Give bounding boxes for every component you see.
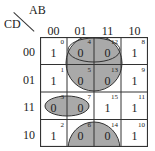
cell-index: 8 xyxy=(142,38,146,46)
cell-index: 1 xyxy=(61,66,65,74)
cell-index: 11 xyxy=(138,93,145,101)
cell-value: 0 xyxy=(94,74,121,89)
cell-index: 7 xyxy=(88,93,92,101)
col-variable-label: AB xyxy=(29,4,46,16)
row-label-00: 00 xyxy=(20,45,38,60)
cell-value: 0 xyxy=(94,129,121,144)
cell-10: 101 xyxy=(121,120,148,148)
cell-index: 5 xyxy=(88,66,92,74)
cell-value: 1 xyxy=(121,101,148,116)
cell-value: 1 xyxy=(121,46,148,61)
cell-index: 9 xyxy=(142,66,146,74)
cell-0: 01 xyxy=(40,37,67,65)
cell-3: 30 xyxy=(40,92,67,120)
cell-index: 2 xyxy=(61,121,65,129)
cell-6: 60 xyxy=(67,120,94,148)
cell-index: 6 xyxy=(88,121,92,129)
cell-value: 1 xyxy=(121,74,148,89)
row-label-10: 10 xyxy=(20,128,38,143)
cell-index: 14 xyxy=(111,121,118,129)
cell-7: 70 xyxy=(67,92,94,120)
cell-value: 1 xyxy=(40,129,67,144)
cell-value: 1 xyxy=(40,74,67,89)
cell-2: 21 xyxy=(40,120,67,148)
cell-index: 4 xyxy=(88,38,92,46)
kmap-grid: 01 40 120 81 11 50 130 91 30 70 151 111 … xyxy=(40,37,148,147)
cell-index: 3 xyxy=(61,93,65,101)
cell-11: 111 xyxy=(121,92,148,120)
cell-value: 0 xyxy=(67,74,94,89)
cell-value: 0 xyxy=(67,129,94,144)
cell-5: 50 xyxy=(67,65,94,93)
cell-15: 151 xyxy=(94,92,121,120)
row-variable-label: CD xyxy=(4,18,21,30)
cell-9: 91 xyxy=(121,65,148,93)
cell-index: 15 xyxy=(111,93,118,101)
cell-value: 1 xyxy=(121,129,148,144)
row-label-01: 01 xyxy=(20,73,38,88)
cell-value: 0 xyxy=(94,46,121,61)
row-label-11: 11 xyxy=(20,100,38,115)
cell-value: 1 xyxy=(40,46,67,61)
cell-value: 0 xyxy=(40,101,67,116)
cell-13: 130 xyxy=(94,65,121,93)
cell-8: 81 xyxy=(121,37,148,65)
cell-value: 0 xyxy=(67,46,94,61)
cell-index: 0 xyxy=(61,38,65,46)
cell-4: 40 xyxy=(67,37,94,65)
cell-index: 10 xyxy=(138,121,145,129)
cell-value: 0 xyxy=(67,101,94,116)
cell-12: 120 xyxy=(94,37,121,65)
cell-value: 1 xyxy=(94,101,121,116)
cell-index: 13 xyxy=(111,66,118,74)
cell-14: 140 xyxy=(94,120,121,148)
cell-index: 12 xyxy=(111,38,118,46)
cell-1: 11 xyxy=(40,65,67,93)
